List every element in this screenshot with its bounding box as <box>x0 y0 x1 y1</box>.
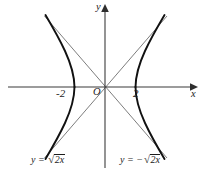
equation-label-left: y = √2x <box>31 154 65 165</box>
equation-left-radicand: 2x <box>54 154 64 165</box>
hyperbola-right-upper <box>136 15 165 87</box>
figure-canvas <box>0 0 205 174</box>
equation-right-radicand: 2x <box>150 154 160 165</box>
equation-right-sign: − <box>136 154 143 165</box>
equation-left-radical-group: √2x <box>47 154 65 165</box>
x-axis-label: x <box>191 89 196 100</box>
equation-label-right: y = −√2x <box>120 154 160 165</box>
x-tick-label-positive-2: 2 <box>133 88 139 99</box>
equation-left-operator: = <box>38 154 45 165</box>
y-axis-arrow-icon <box>101 4 109 12</box>
hyperbola-left-upper <box>46 15 75 87</box>
equation-right-radical-group: √2x <box>143 154 161 165</box>
hyperbola-right-lower <box>136 87 165 159</box>
equation-right-operator: = <box>127 154 134 165</box>
y-axis-label: y <box>96 2 101 13</box>
hyperbola-figure: -2 2 O x y y = √2x y = −√2x <box>0 0 205 174</box>
origin-label: O <box>93 87 101 98</box>
x-tick-label-negative-2: -2 <box>56 88 65 99</box>
